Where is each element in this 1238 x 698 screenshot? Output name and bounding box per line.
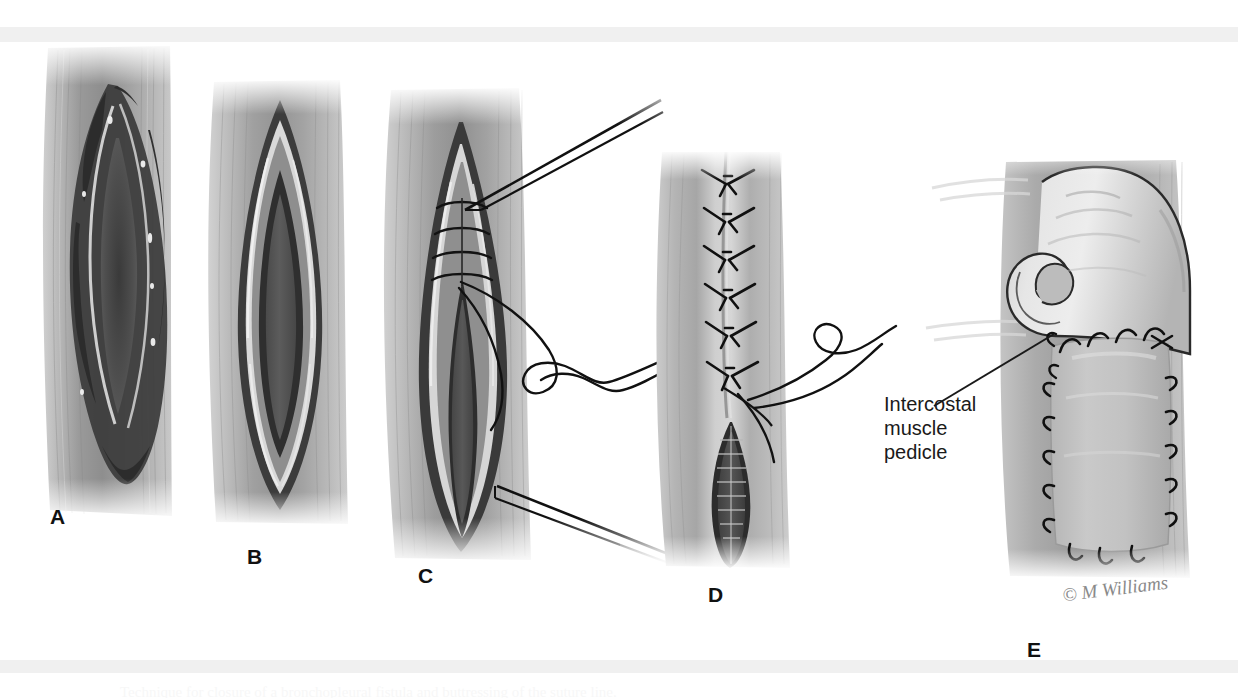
panel-letter-a: A <box>50 505 65 529</box>
intercostal-muscle-pedicle-label: Intercostal muscle pedicle <box>884 392 976 464</box>
top-gray-band <box>0 27 1238 42</box>
panel-letter-e: E <box>1027 638 1041 662</box>
panel-letter-b: B <box>247 545 262 569</box>
panel-letter-d: D <box>708 583 723 607</box>
figure-caption: Technique for closure of a bronchopleura… <box>0 684 1238 698</box>
bottom-gray-band <box>0 660 1238 673</box>
panel-letter-c: C <box>418 564 433 588</box>
medical-illustration-figure: A <box>0 0 1238 698</box>
